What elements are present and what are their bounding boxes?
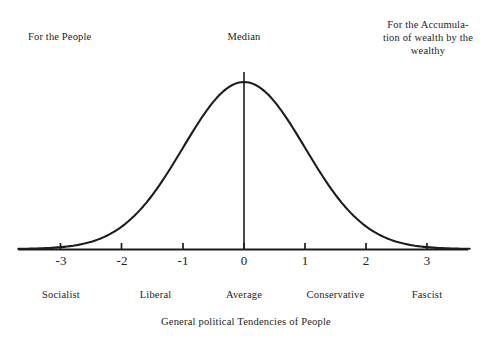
annotation-left: For the People [28, 30, 91, 43]
x-tick-label: 2 [346, 253, 386, 269]
annotation-right: For the Accumula- tion of wealth by the … [370, 18, 486, 57]
figure-caption: General political Tendencies of People [0, 316, 492, 327]
x-tick-label: 3 [407, 253, 447, 269]
annotation-median: Median [194, 30, 294, 43]
category-label: Socialist [6, 289, 116, 300]
x-tick-label: 0 [224, 253, 264, 269]
x-tick-label: -3 [41, 253, 81, 269]
category-label: Fascist [372, 289, 482, 300]
x-tick-label: -1 [163, 253, 203, 269]
x-tick-label: -2 [102, 253, 142, 269]
x-tick-label: 1 [285, 253, 325, 269]
